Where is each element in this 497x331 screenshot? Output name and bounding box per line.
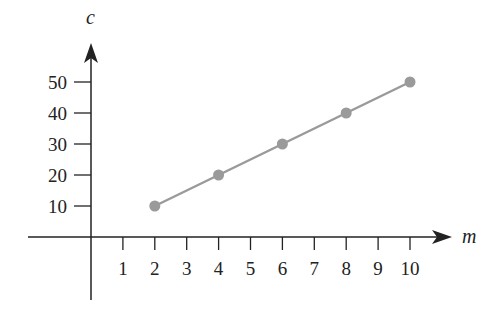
x-tick-label: 2 [150, 258, 160, 279]
data-point-marker [341, 108, 352, 119]
x-tick-label: 6 [278, 258, 288, 279]
y-tick-label: 40 [48, 103, 67, 124]
data-point-marker [277, 139, 288, 150]
line-chart: mc 123456789101020304050 [0, 0, 497, 331]
y-tick-label: 50 [48, 72, 67, 93]
ticks: 123456789101020304050 [48, 72, 420, 279]
x-tick-label: 3 [182, 258, 192, 279]
x-tick-label: 10 [401, 258, 420, 279]
y-axis-label: c [86, 6, 95, 28]
x-tick-label: 7 [310, 258, 320, 279]
data-point-marker [149, 201, 160, 212]
data-point-marker [213, 170, 224, 181]
y-tick-label: 20 [48, 165, 67, 186]
axes: mc [28, 6, 476, 300]
data-series [149, 77, 415, 212]
x-tick-label: 8 [341, 258, 351, 279]
y-tick-label: 10 [48, 196, 67, 217]
x-tick-label: 1 [118, 258, 128, 279]
x-tick-label: 5 [246, 258, 256, 279]
x-axis-label: m [462, 225, 476, 247]
x-tick-label: 4 [214, 258, 224, 279]
y-tick-label: 30 [48, 134, 67, 155]
x-tick-label: 9 [373, 258, 383, 279]
data-point-marker [405, 77, 416, 88]
